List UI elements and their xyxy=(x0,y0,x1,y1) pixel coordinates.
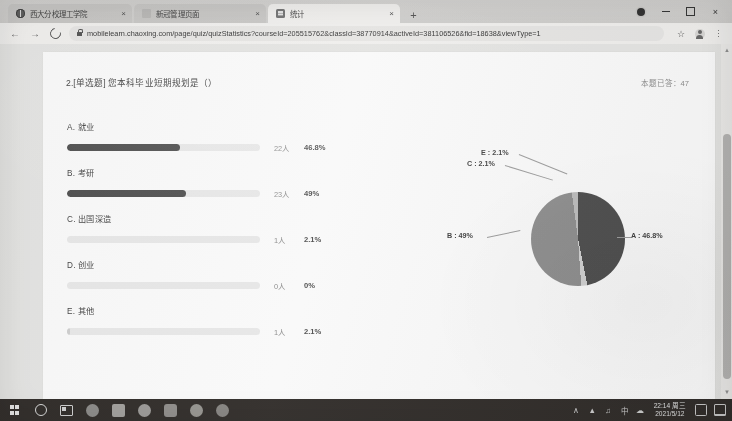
option-b-bar-fill xyxy=(67,190,186,197)
pie-leader-c xyxy=(505,165,553,180)
option-row-c: C. 出国深造 1人 2.1% xyxy=(67,212,357,245)
option-d-label: D. 创业 xyxy=(67,258,357,270)
tray-chevron-icon[interactable]: ∧ xyxy=(572,404,581,417)
cloud-icon[interactable]: ☁ xyxy=(636,404,645,417)
option-b-label: B. 考研 xyxy=(67,166,357,178)
option-row-d: D. 创业 0人 0% xyxy=(67,258,357,291)
option-e-bar-fill xyxy=(67,328,70,335)
option-a-bar-track xyxy=(67,144,260,151)
screen-photo: 西大分校理工学院 × 新冠管理页面 × 统计 × + × ← → xyxy=(0,0,732,421)
kebab-menu-icon[interactable] xyxy=(709,24,728,43)
start-icon[interactable] xyxy=(8,404,21,417)
reload-button[interactable] xyxy=(45,24,65,44)
scrollbar-thumb[interactable] xyxy=(723,134,731,379)
option-d-count: 0人 xyxy=(274,280,304,291)
volume-icon[interactable]: ♫ xyxy=(604,404,613,417)
taskbar-time: 22:14 周三 xyxy=(654,402,686,411)
browser-tab-1[interactable]: 西大分校理工学院 × xyxy=(8,4,132,23)
page-scrollbar[interactable]: ▲ ▼ xyxy=(721,44,732,399)
task-view-icon[interactable] xyxy=(60,404,73,417)
forward-button[interactable]: → xyxy=(25,24,45,44)
option-e-label: E. 其他 xyxy=(67,304,357,316)
option-c-bar-track xyxy=(67,236,260,243)
taskbar-app-icon-1[interactable] xyxy=(86,404,99,417)
taskbar-date: 2021/5/12 xyxy=(654,410,686,419)
quiz-statistics-card: 2.[单选题] 您本科毕业短期规划是（） 本题已答：47 A. 就业 22人 4… xyxy=(43,52,715,399)
bookmark-star-icon[interactable]: ☆ xyxy=(671,24,690,43)
scroll-down-arrow-icon[interactable]: ▼ xyxy=(723,388,731,396)
toolbar-actions: ☆ xyxy=(671,24,728,43)
notification-icon[interactable] xyxy=(714,404,726,417)
profile-dot-icon[interactable] xyxy=(628,2,653,21)
address-bar-url: mobilelearn.chaoxing.com/page/quiz/quizS… xyxy=(87,29,541,38)
taskbar-app-icon-3[interactable] xyxy=(138,404,151,417)
option-a-label: A. 就业 xyxy=(67,120,357,132)
taskbar-app-icon-6[interactable] xyxy=(216,404,229,417)
close-window-button[interactable]: × xyxy=(703,2,728,21)
option-a-count: 22人 xyxy=(274,142,304,153)
taskbar-app-icon-5[interactable] xyxy=(190,404,203,417)
network-icon[interactable]: ▲ xyxy=(588,404,597,417)
new-tab-button[interactable]: + xyxy=(405,6,422,23)
option-a-percent: 46.8% xyxy=(304,143,326,152)
option-e-count: 1人 xyxy=(274,326,304,337)
ime-indicator[interactable]: 中 xyxy=(620,404,629,417)
browser-tab-3-title: 统计 xyxy=(290,8,304,19)
browser-tab-3[interactable]: 统计 × xyxy=(268,4,400,23)
windows-taskbar: ∧ ▲ ♫ 中 ☁ 22:14 周三 2021/5/12 xyxy=(0,399,732,421)
blank-page-icon xyxy=(142,9,151,18)
option-d-bar-track xyxy=(67,282,260,289)
pie-leader-b xyxy=(487,230,520,238)
option-row-b: B. 考研 23人 49% xyxy=(67,166,357,199)
option-b-count: 23人 xyxy=(274,188,304,199)
option-d-percent: 0% xyxy=(304,281,315,290)
option-c-count: 1人 xyxy=(274,234,304,245)
window-controls: × xyxy=(628,2,728,21)
taskbar-app-icon-2[interactable] xyxy=(112,404,125,417)
option-e-bar-track xyxy=(67,328,260,335)
browser-tab-2[interactable]: 新冠管理页面 × xyxy=(134,4,266,23)
close-tab-3-icon[interactable]: × xyxy=(375,10,394,18)
close-tab-1-icon[interactable]: × xyxy=(107,10,126,18)
option-list: A. 就业 22人 46.8% B. 考研 xyxy=(67,120,357,350)
option-row-a: A. 就业 22人 46.8% xyxy=(67,120,357,153)
pie-label-e: E : 2.1% xyxy=(481,148,509,157)
system-tray: ∧ ▲ ♫ 中 ☁ 22:14 周三 2021/5/12 xyxy=(572,402,732,419)
option-a-bar-fill xyxy=(67,144,180,151)
option-b-percent: 49% xyxy=(304,189,319,198)
browser-tab-2-title: 新冠管理页面 xyxy=(156,8,199,19)
browser-tab-1-title: 西大分校理工学院 xyxy=(30,8,88,19)
option-c-label: C. 出国深造 xyxy=(67,212,357,224)
action-center-icon[interactable] xyxy=(695,404,707,417)
search-circle-icon[interactable] xyxy=(34,404,47,417)
pie-label-c: C : 2.1% xyxy=(467,159,495,168)
pie-label-a: A : 46.8% xyxy=(631,231,663,240)
document-icon xyxy=(276,9,285,18)
lock-icon xyxy=(77,32,82,36)
pie-chart: A : 46.8% B : 49% C : 2.1% E : 2.1% xyxy=(443,147,713,327)
taskbar-clock[interactable]: 22:14 周三 2021/5/12 xyxy=(652,402,688,419)
profile-avatar-icon[interactable] xyxy=(690,24,709,43)
pie-leader-a xyxy=(617,237,631,238)
back-button[interactable]: ← xyxy=(5,24,25,44)
option-e-percent: 2.1% xyxy=(304,327,321,336)
globe-icon xyxy=(16,9,25,18)
reload-icon xyxy=(47,26,62,41)
address-bar[interactable]: mobilelearn.chaoxing.com/page/quiz/quizS… xyxy=(69,26,664,41)
option-c-percent: 2.1% xyxy=(304,235,321,244)
pie-label-b: B : 49% xyxy=(447,231,473,240)
close-tab-2-icon[interactable]: × xyxy=(241,10,260,18)
question-title: 2.[单选题] 您本科毕业短期规划是（） xyxy=(66,76,217,88)
scroll-up-arrow-icon[interactable]: ▲ xyxy=(723,46,731,54)
taskbar-app-icon-4[interactable] xyxy=(164,404,177,417)
answered-count-label: 本题已答：47 xyxy=(641,77,689,88)
minimize-button[interactable] xyxy=(653,2,678,21)
pie-chart-disc xyxy=(531,192,625,286)
browser-tabstrip: 西大分校理工学院 × 新冠管理页面 × 统计 × + xyxy=(8,3,422,23)
maximize-button[interactable] xyxy=(678,2,703,21)
page-viewport: 2.[单选题] 您本科毕业短期规划是（） 本题已答：47 A. 就业 22人 4… xyxy=(0,44,732,399)
browser-toolbar: ← → mobilelearn.chaoxing.com/page/quiz/q… xyxy=(0,23,732,44)
browser-tabstrip-bar: 西大分校理工学院 × 新冠管理页面 × 统计 × + × xyxy=(0,0,732,23)
taskbar-app-area xyxy=(0,404,229,417)
option-row-e: E. 其他 1人 2.1% xyxy=(67,304,357,337)
